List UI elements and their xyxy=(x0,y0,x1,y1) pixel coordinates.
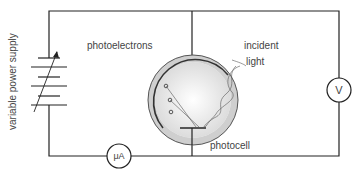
photocell-icon xyxy=(148,55,246,145)
light-label: light xyxy=(246,56,264,67)
voltmeter-label: V xyxy=(335,84,342,96)
incident-label: incident xyxy=(244,40,278,51)
photocell-label: photocell xyxy=(210,140,250,151)
variable-power-supply-icon xyxy=(31,51,67,112)
photoelectrons-label: photoelectrons xyxy=(87,40,153,51)
circuit-diagram xyxy=(0,0,362,177)
power-supply-label: variable power supply xyxy=(7,33,18,130)
microammeter-label: μA xyxy=(113,151,124,161)
